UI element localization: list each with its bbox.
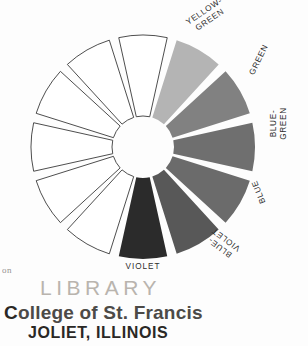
stamp-college-line: College of St. Francis	[4, 302, 203, 324]
library-stamp: on LIBRARY College of St. Francis JOLIET…	[0, 272, 308, 346]
segment-label-blue-green: BLUE- GREEN	[269, 101, 288, 147]
segment-label-violet: VIOLET	[112, 262, 174, 272]
stamp-college-initial: C	[4, 302, 18, 323]
stamp-city-line: JOLIET, ILLINOIS	[28, 324, 168, 342]
color-wheel-figure: YELLOW- GREEN GREEN BLUE- GREEN BLUE BLU…	[0, 0, 308, 280]
page-canvas: YELLOW- GREEN GREEN BLUE- GREEN BLUE BLU…	[0, 0, 308, 346]
page-text-fragment: on	[2, 265, 12, 275]
wheel-segments	[31, 35, 255, 259]
stamp-library-line: LIBRARY	[40, 276, 161, 300]
stamp-college-rest: ollege of St. Francis	[18, 302, 203, 323]
